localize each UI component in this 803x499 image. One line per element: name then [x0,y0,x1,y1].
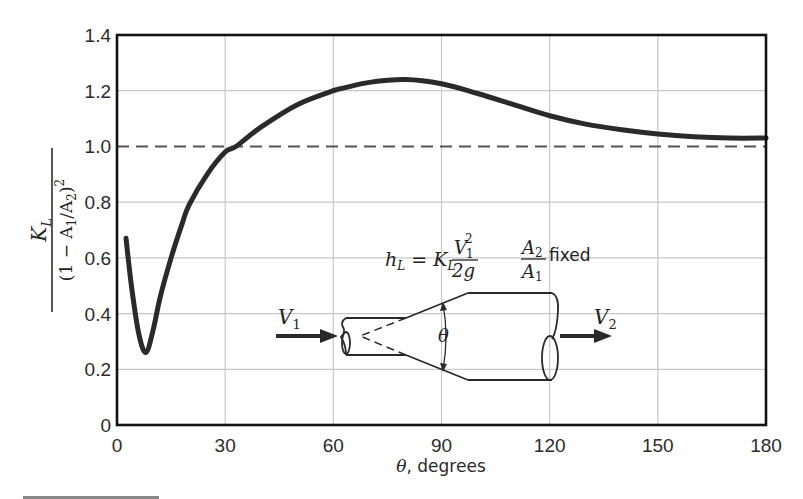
loss-coefficient-curve [126,80,766,353]
x-tick-label: 120 [534,435,566,456]
y-axis-ticks: 00.20.40.60.81.01.21.4 [85,25,112,436]
area-ratio-label: A2 A1 fixed [520,237,591,284]
y-title-numerator: K [27,226,51,243]
y-tick-label: 0.4 [85,304,112,325]
theta-label: θ [438,325,449,346]
x-axis-title: θ, degrees [396,456,486,476]
diffuser-wall-bottom [406,355,468,380]
svg-text:2: 2 [465,232,473,246]
diffuser-wall-top [406,293,468,318]
y-tick-label: 1.2 [85,81,111,102]
y-tick-label: 1.4 [85,25,112,46]
theta-symbol: θ [396,456,406,476]
svg-text:KL: KL [27,218,54,243]
svg-text:(1 − A1/A2)2: (1 − A1/A2)2 [53,179,79,281]
v1-label: V1 [278,305,301,332]
y-tick-label: 1.0 [85,136,111,157]
x-tick-label: 180 [750,435,782,456]
svg-text:fixed: fixed [549,245,591,265]
svg-text:hL = KL: hL = KL [385,248,455,273]
y-tick-label: 0.8 [85,192,111,213]
x-axis-ticks: 0306090120150180 [112,435,782,456]
svg-text:1: 1 [466,247,474,261]
head-loss-formula: hL = KL V 2 1 2g [385,232,478,281]
x-tick-label: 0 [112,435,123,456]
y-tick-label: 0.6 [85,248,111,269]
x-tick-label: 90 [431,435,452,456]
x-axis-title-text: , degrees [407,456,486,476]
outlet-velocity-arrow [560,329,612,343]
v2-label: V2 [594,305,617,332]
svg-text:A2: A2 [520,237,543,260]
x-tick-label: 150 [642,435,674,456]
y-tick-label: 0 [100,415,111,436]
outlet-pipe-cut [552,293,558,339]
x-tick-label: 60 [323,435,344,456]
cone-projection-bottom [360,336,406,355]
diffuser-diagram [341,293,558,380]
svg-text:A1: A1 [520,261,543,284]
y-axis-title: KL (1 − A1/A2)2 [27,148,79,312]
svg-text:2g: 2g [451,260,475,281]
inlet-velocity-arrow [276,329,338,343]
v1-arrowhead [320,329,338,343]
y-tick-label: 0.2 [85,359,111,380]
x-tick-label: 30 [215,435,236,456]
cone-projection-top [360,318,406,336]
